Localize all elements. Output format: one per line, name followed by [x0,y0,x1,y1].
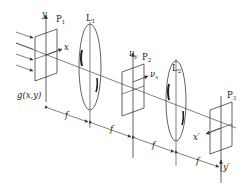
plane-p1: y x P1 g(x,y) [17,9,69,102]
incident-light-rays [16,32,33,71]
distance-f-1: f [64,110,70,120]
p2-vx-label: νx [150,69,159,80]
distance-f-3: f [151,140,157,150]
p3-label: P3 [227,90,237,101]
p1-y-label: y [41,9,47,19]
l2-label: L2 [172,63,181,74]
p1-label: P1 [56,14,65,25]
p3-y-label: y′ [222,162,230,172]
plane-p3: x′ y′ P3 [193,90,237,183]
l1-label: L1 [86,13,95,24]
p1-x-axis [46,49,62,55]
p2-vy-label: νy [129,48,138,60]
distance-f-2: f [109,124,115,134]
p2-vx-axis [133,76,148,82]
optical-axis [16,43,236,128]
p3-x-axis [206,128,221,134]
p2-label: P2 [142,52,151,63]
optical-system-diagram: y x P1 g(x,y) L1 νy νx P2 L2 x′ y′ [0,0,248,191]
p3-x-label: x′ [193,132,200,142]
p1-field-label: g(x,y) [17,90,41,100]
lens-l1: L1 [79,13,101,128]
distance-f-4: f [195,156,201,166]
p1-x-label: x [64,42,69,52]
